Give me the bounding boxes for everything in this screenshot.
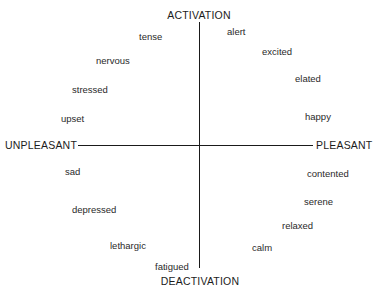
emotion-label-lethargic: lethargic bbox=[110, 240, 146, 251]
axis-label-pleasant: PLEASANT bbox=[316, 139, 372, 151]
emotion-label-elated: elated bbox=[295, 73, 321, 84]
emotion-label-upset: upset bbox=[61, 113, 84, 124]
axis-label-activation: ACTIVATION bbox=[167, 9, 230, 21]
emotion-label-serene: serene bbox=[304, 196, 333, 207]
emotion-label-stressed: stressed bbox=[72, 84, 108, 95]
emotion-label-fatigued: fatigued bbox=[155, 261, 189, 272]
emotion-label-relaxed: relaxed bbox=[282, 220, 313, 231]
emotion-label-calm: calm bbox=[252, 242, 272, 253]
axis-label-deactivation: DEACTIVATION bbox=[161, 275, 239, 287]
emotion-label-alert: alert bbox=[227, 26, 245, 37]
emotion-label-tense: tense bbox=[139, 31, 162, 42]
emotion-label-depressed: depressed bbox=[72, 204, 116, 215]
emotion-label-happy: happy bbox=[305, 111, 331, 122]
emotion-label-sad: sad bbox=[65, 166, 80, 177]
axis-label-unpleasant: UNPLEASANT bbox=[5, 139, 77, 151]
emotion-label-excited: excited bbox=[262, 46, 292, 57]
emotion-label-contented: contented bbox=[307, 168, 349, 179]
circumplex-affect-diagram: ACTIVATION DEACTIVATION UNPLEASANT PLEAS… bbox=[0, 0, 385, 292]
horizontal-axis-line bbox=[78, 145, 313, 146]
vertical-axis-line bbox=[199, 22, 200, 268]
emotion-label-nervous: nervous bbox=[96, 55, 130, 66]
